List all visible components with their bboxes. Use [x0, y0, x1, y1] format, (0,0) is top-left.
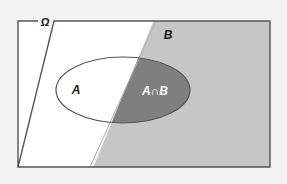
label-universe-omega: Ω	[40, 16, 50, 28]
label-intersection-a-and-b: A∩B	[141, 84, 168, 98]
venn-diagram-figure: Ω A B A∩B	[0, 0, 287, 184]
label-set-b: B	[164, 28, 173, 42]
label-set-a: A	[71, 83, 81, 97]
venn-diagram-canvas: Ω A B A∩B	[0, 0, 287, 184]
